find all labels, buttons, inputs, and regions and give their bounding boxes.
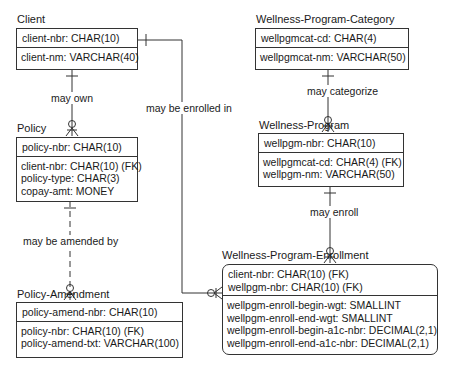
attribute: wellpgm-nm: VARCHAR(50) — [263, 168, 399, 181]
key-attribute: wellpgm-nbr: CHAR(10) (FK) — [228, 281, 433, 294]
key-attribute: client-nbr: CHAR(10) — [22, 32, 133, 45]
attribute: policy-nbr: CHAR(10) (FK) — [21, 325, 178, 338]
attribute-section: wellpgmcat-cd: CHAR(4) (FK) wellpgm-nm: … — [259, 153, 403, 183]
attribute: policy-amend-txt: VARCHAR(100) — [21, 337, 178, 350]
entity-title-wellness-program-enrollment: Wellness-Program-Enrollment — [222, 249, 369, 261]
entity-policy-amendment[interactable]: policy-amend-nbr: CHAR(10) policy-nbr: C… — [16, 302, 183, 358]
attribute-section: wellpgmcat-nm: VARCHAR(50) — [256, 48, 408, 66]
entity-wellness-program-enrollment[interactable]: client-nbr: CHAR(10) (FK) wellpgm-nbr: C… — [222, 264, 438, 355]
attribute-section: policy-nbr: CHAR(10) (FK) policy-amend-t… — [17, 322, 182, 352]
attribute: wellpgm-enroll-end-wgt: SMALLINT — [227, 312, 433, 325]
attribute: copay-amt: MONEY — [21, 185, 133, 198]
attribute: wellpgmcat-cd: CHAR(4) (FK) — [263, 156, 399, 169]
relationship-label-may-be-amended-by: may be amended by — [22, 235, 119, 247]
entity-client[interactable]: client-nbr: CHAR(10) client-nm: VARCHAR(… — [16, 28, 138, 70]
attribute-section: client-nbr: CHAR(10) (FK) policy-type: C… — [17, 157, 137, 200]
entity-title-wellness-program-category: Wellness-Program-Category — [256, 13, 395, 25]
key-section: wellpgmcat-cd: CHAR(4) — [256, 29, 408, 48]
attribute: wellpgm-enroll-end-a1c-nbr: DECIMAL(2,1) — [227, 337, 433, 350]
key-attribute: wellpgmcat-cd: CHAR(4) — [261, 32, 404, 45]
entity-title-policy-amendment: Policy-Amendment — [17, 288, 109, 300]
key-section: wellpgm-nbr: CHAR(10) — [259, 134, 403, 153]
entity-policy[interactable]: policy-nbr: CHAR(10) client-nbr: CHAR(10… — [16, 137, 138, 202]
attribute: policy-type: CHAR(3) — [21, 172, 133, 185]
relationship-label-may-categorize: may categorize — [306, 85, 379, 97]
key-section: client-nbr: CHAR(10) (FK) wellpgm-nbr: C… — [223, 265, 437, 296]
entity-title-wellness-program: Wellness-Program — [259, 119, 349, 131]
policy-amendment-connector — [64, 201, 76, 300]
key-section: policy-nbr: CHAR(10) — [17, 138, 137, 157]
client-enrollment-connector — [137, 34, 222, 299]
attribute: wellpgm-enroll-begin-wgt: SMALLINT — [227, 299, 433, 312]
key-section: client-nbr: CHAR(10) — [17, 29, 137, 48]
relationship-label-may-own: may own — [50, 92, 94, 104]
attribute: wellpgm-enroll-begin-a1c-nbr: DECIMAL(2,… — [227, 324, 433, 337]
entity-wellness-program[interactable]: wellpgm-nbr: CHAR(10) wellpgmcat-cd: CHA… — [258, 133, 404, 187]
attribute-section: client-nm: VARCHAR(40) — [17, 48, 137, 66]
attribute: wellpgmcat-nm: VARCHAR(50) — [260, 51, 404, 64]
key-attribute: policy-amend-nbr: CHAR(10) — [22, 306, 178, 319]
attribute-section: wellpgm-enroll-begin-wgt: SMALLINT wellp… — [223, 296, 437, 351]
relationship-label-may-be-enrolled-in: may be enrolled in — [145, 102, 233, 114]
key-attribute: client-nbr: CHAR(10) (FK) — [228, 268, 433, 281]
key-section: policy-amend-nbr: CHAR(10) — [17, 303, 182, 322]
attribute: client-nm: VARCHAR(40) — [21, 51, 133, 64]
entity-title-policy: Policy — [17, 122, 46, 134]
attribute: client-nbr: CHAR(10) (FK) — [21, 160, 133, 173]
key-attribute: wellpgm-nbr: CHAR(10) — [264, 137, 399, 150]
entity-title-client: Client — [17, 13, 45, 25]
relationship-label-may-enroll: may enroll — [309, 206, 359, 218]
entity-wellness-program-category[interactable]: wellpgmcat-cd: CHAR(4) wellpgmcat-nm: VA… — [255, 28, 409, 70]
key-attribute: policy-nbr: CHAR(10) — [22, 141, 133, 154]
